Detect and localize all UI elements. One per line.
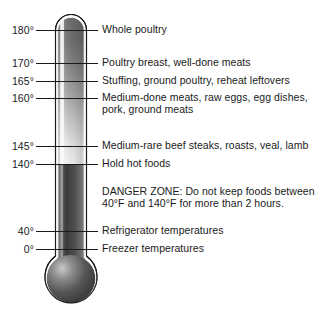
thermometer-figure: 180° 170° 165° 160° 145° 140° 40° 0° Who…	[0, 0, 322, 310]
temperature-label-40: 40°	[0, 225, 34, 237]
tick-line	[36, 146, 98, 147]
temperature-label-0: 0°	[0, 243, 34, 255]
thermometer-inner-edge	[46, 17, 96, 303]
description-stuffing: Stuffing, ground poultry, reheat leftove…	[102, 75, 290, 87]
tick-line	[36, 249, 98, 250]
description-hold-hot-foods: Hold hot foods	[102, 158, 170, 170]
description-whole-poultry: Whole poultry	[102, 24, 167, 36]
danger-zone-note: DANGER ZONE: Do not keep foods between 4…	[102, 185, 315, 209]
tick-line	[36, 81, 98, 82]
description-poultry-breast: Poultry breast, well-done meats	[102, 57, 251, 69]
tick-line	[36, 98, 98, 99]
temperature-label-170: 170°	[0, 57, 34, 69]
description-medium-done-meats: Medium-done meats, raw eggs, egg dishes,…	[102, 92, 308, 115]
thermometer-graphic	[0, 0, 322, 310]
description-medium-rare-beef: Medium-rare beef steaks, roasts, veal, l…	[102, 140, 308, 152]
thermometer-glass-outline	[45, 14, 97, 302]
tick-line	[36, 231, 98, 232]
temperature-label-165: 165°	[0, 75, 34, 87]
thermometer-outline-top	[45, 14, 97, 302]
description-freezer: Freezer temperatures	[102, 243, 204, 255]
thermometer-fill	[45, 16, 97, 307]
description-refrigerator: Refrigerator temperatures	[102, 225, 223, 237]
temperature-label-145: 145°	[0, 140, 34, 152]
temperature-label-180: 180°	[0, 24, 34, 36]
tick-line	[36, 164, 98, 165]
temperature-label-140: 140°	[0, 158, 34, 170]
tick-line	[36, 30, 98, 31]
tick-line	[36, 63, 98, 64]
temperature-label-160: 160°	[0, 92, 34, 104]
